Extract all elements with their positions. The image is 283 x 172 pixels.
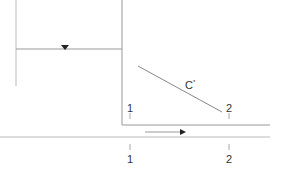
section-2-label-upper: 2: [226, 102, 232, 114]
c-star-label: C*: [185, 79, 196, 91]
flow-arrow-head-icon: [180, 129, 186, 135]
section-1-label-lower: 1: [127, 153, 133, 165]
section-2-label-lower: 2: [226, 153, 232, 165]
diagram-canvas: C* 1 2 1 2: [0, 0, 283, 172]
energy-grade-line: [138, 66, 222, 112]
section-1-label-upper: 1: [127, 102, 133, 114]
